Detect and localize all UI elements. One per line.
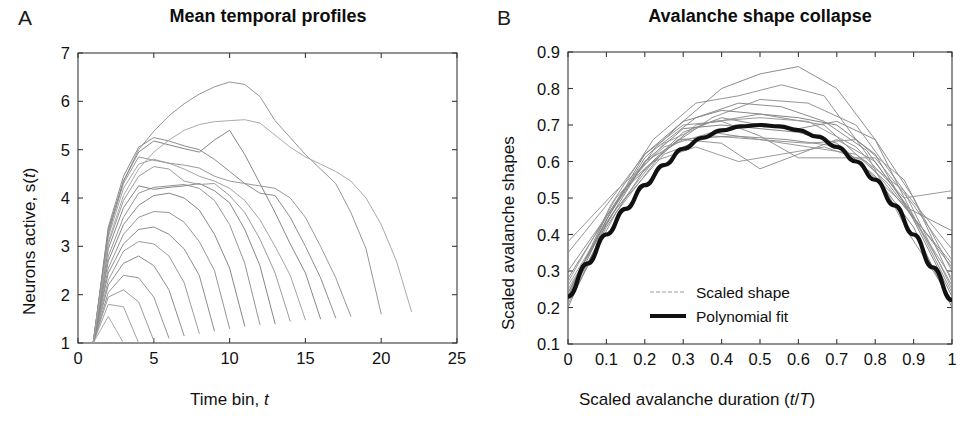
x-label-italic: t: [264, 390, 269, 409]
x-tick-label: 0.1: [595, 350, 618, 368]
y-tick-label: 5: [61, 141, 70, 159]
y-tick-label: 0.2: [537, 299, 560, 317]
y-tick-label: 0.8: [537, 80, 560, 98]
legend-label: Scaled shape: [696, 284, 790, 301]
x-tick-label: 0.7: [825, 350, 848, 368]
panel-a-title: Mean temporal profiles: [78, 6, 458, 27]
x-tick-label: 0.2: [633, 350, 656, 368]
series-line: [93, 120, 411, 343]
series-line: [93, 159, 305, 343]
y-tick-label: 6: [61, 92, 70, 110]
panel-a-y-axis-label: Neurons active, s(t): [20, 168, 40, 315]
x-label-suffix: ): [810, 390, 816, 409]
y-tick-label: 0.4: [537, 226, 560, 244]
panel-a-letter: A: [18, 6, 33, 30]
panel-b-plot: 00.10.20.30.40.50.60.70.80.910.10.20.30.…: [485, 0, 969, 428]
series-line: [93, 184, 260, 343]
y-tick-label: 0.1: [537, 335, 560, 353]
x-tick-label: 0.6: [787, 350, 810, 368]
data-series-group: [568, 67, 952, 308]
x-tick-label: 5: [149, 349, 158, 367]
y-tick-label: 0.9: [537, 43, 560, 61]
x-tick-label: 0: [73, 349, 82, 367]
series-line: [568, 147, 952, 286]
series-line: [568, 125, 952, 308]
y-label-suffix: ): [20, 168, 39, 174]
legend-label: Polynomial fit: [696, 308, 789, 325]
data-series-group: [93, 82, 411, 343]
y-label-prefix: Neurons active, s(: [20, 178, 39, 315]
x-tick-label: 0.9: [902, 350, 925, 368]
series-line: [93, 184, 275, 344]
series-line: [93, 242, 199, 344]
x-tick-label: 0: [563, 350, 572, 368]
panel-b: B Avalanche shape collapse Scaled avalan…: [485, 0, 969, 428]
panel-b-title: Avalanche shape collapse: [568, 6, 952, 27]
series-line: [93, 130, 320, 343]
series-line: [93, 193, 245, 343]
figure-panel-container: A Mean temporal profiles Neurons active,…: [0, 0, 969, 428]
series-line: [568, 140, 952, 297]
y-label-italic: t: [20, 173, 39, 178]
y-tick-label: 2: [61, 286, 70, 304]
series-line: [93, 82, 381, 343]
x-label-italic-T: T: [799, 390, 809, 409]
y-tick-label: 0.6: [537, 153, 560, 171]
x-tick-label: 20: [372, 349, 390, 367]
panel-b-x-axis-label: Scaled avalanche duration (t/T): [579, 390, 815, 410]
y-tick-label: 7: [61, 44, 70, 62]
panel-b-letter: B: [497, 6, 512, 30]
y-tick-label: 0.5: [537, 189, 560, 207]
y-tick-label: 1: [61, 334, 70, 352]
series-line: [568, 136, 952, 289]
x-tick-label: 10: [220, 349, 238, 367]
x-tick-label: 15: [296, 349, 314, 367]
panel-a-plot: 05101520251234567: [0, 0, 485, 428]
x-label-prefix: Scaled avalanche duration (: [579, 390, 790, 409]
y-tick-label: 4: [61, 189, 70, 207]
x-tick-label: 0.3: [672, 350, 695, 368]
y-tick-label: 0.3: [537, 262, 560, 280]
x-tick-label: 1: [947, 350, 956, 368]
x-tick-label: 0.4: [710, 350, 733, 368]
x-tick-label: 0.5: [749, 350, 772, 368]
panel-b-y-axis-label: Scaled avalanche shapes: [499, 136, 519, 330]
x-label-prefix: Time bin,: [190, 390, 264, 409]
legend: Scaled shapePolynomial fit: [650, 284, 790, 325]
x-tick-label: 0.8: [864, 350, 887, 368]
y-tick-label: 3: [61, 237, 70, 255]
panel-a-x-axis-label: Time bin, t: [190, 390, 269, 410]
panel-a: A Mean temporal profiles Neurons active,…: [0, 0, 485, 428]
x-tick-label: 25: [448, 349, 466, 367]
polynomial-fit-line: [568, 125, 952, 300]
y-tick-label: 0.7: [537, 116, 560, 134]
